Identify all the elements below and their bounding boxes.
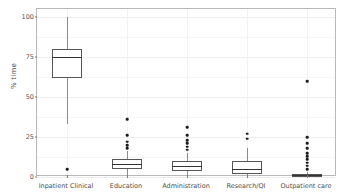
outlier-point (186, 149, 189, 152)
gridline-minor (37, 37, 335, 38)
x-tick-label: Outpatient care (280, 182, 331, 190)
outlier-point (186, 139, 189, 142)
y-tick-label: 0 (30, 173, 34, 181)
x-tick-label: Inpatient Clinical (39, 182, 94, 190)
x-tick-label: Research/QI (226, 182, 265, 190)
gridline-major (37, 177, 335, 178)
x-tick-mark (307, 175, 308, 178)
boxplot-figure: % time 0255075100 Inpatient ClinicalEduc… (0, 0, 344, 196)
outlier-point (306, 155, 309, 158)
x-tick-mark (187, 175, 188, 178)
median-line (172, 166, 202, 167)
x-tick-label: Administration (162, 182, 210, 190)
outlier-point (126, 134, 129, 137)
box-iqr (232, 161, 262, 174)
gridline-vertical (307, 9, 308, 175)
gridline-major (37, 97, 335, 98)
outlier-point (126, 141, 129, 144)
outlier-point (186, 145, 189, 148)
outlier-point (126, 147, 129, 150)
y-tick-mark (35, 97, 38, 98)
y-tick-label: 25 (26, 133, 34, 141)
median-line (52, 57, 82, 58)
gridline-major (37, 17, 335, 18)
outlier-point (306, 165, 309, 168)
x-tick-label: Education (110, 182, 142, 190)
outlier-point (126, 144, 129, 147)
outlier-point (186, 142, 189, 145)
x-tick-mark (67, 175, 68, 178)
median-line (112, 164, 142, 165)
gridline-minor (37, 117, 335, 118)
outlier-point (306, 161, 309, 164)
outlier-point (126, 118, 129, 121)
y-tick-mark (35, 17, 38, 18)
x-tick-mark (247, 175, 248, 178)
outlier-point (246, 137, 249, 140)
outlier-point (306, 80, 309, 83)
y-tick-label: 100 (22, 13, 34, 21)
median-line (232, 169, 262, 170)
y-axis-title: % time (10, 46, 18, 106)
outlier-point (186, 134, 189, 137)
outlier-point (306, 136, 309, 139)
outlier-point (306, 142, 309, 145)
gridline-major (37, 137, 335, 138)
outlier-point (66, 168, 69, 171)
y-tick-mark (35, 177, 38, 178)
outlier-point (246, 133, 249, 136)
outlier-point (186, 126, 189, 129)
y-tick-mark (35, 57, 38, 58)
box-iqr (52, 49, 82, 78)
y-tick-label: 50 (26, 93, 34, 101)
outlier-point (306, 152, 309, 155)
y-tick-mark (35, 137, 38, 138)
outlier-point (306, 158, 309, 161)
outlier-point (306, 147, 309, 150)
gridline-vertical (127, 9, 128, 175)
y-tick-label: 75 (26, 53, 34, 61)
outlier-point (306, 168, 309, 171)
plot-panel: 0255075100 (36, 8, 336, 176)
x-tick-mark (127, 175, 128, 178)
